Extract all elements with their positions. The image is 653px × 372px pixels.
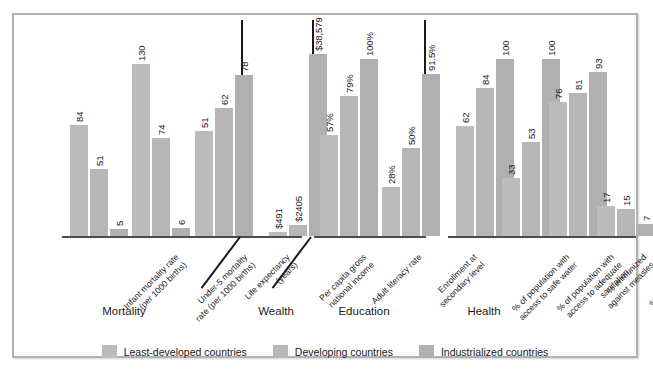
bar-item[interactable]: 5: [110, 229, 128, 236]
bar-item[interactable]: 74: [152, 138, 170, 236]
bar[interactable]: [617, 209, 635, 236]
bar-item[interactable]: $2405: [289, 225, 307, 236]
axis-baseline: [244, 236, 302, 238]
bar-item[interactable]: 79%: [340, 96, 358, 236]
bar-value-label: 15: [621, 196, 632, 206]
bar[interactable]: [152, 138, 170, 236]
bar-item[interactable]: 17: [597, 206, 615, 236]
legend-item[interactable]: Least-developed countries: [102, 345, 247, 358]
bar[interactable]: [476, 88, 494, 237]
legend-item[interactable]: Industrialized countries: [419, 345, 548, 358]
bar[interactable]: [289, 225, 307, 236]
bar-item[interactable]: 53: [522, 142, 540, 236]
bar[interactable]: [360, 59, 378, 236]
bar[interactable]: [110, 229, 128, 236]
bar-item[interactable]: 50%: [402, 148, 420, 236]
bar-value-label: 100: [546, 41, 557, 57]
bar-item[interactable]: 57%: [320, 135, 338, 236]
bar[interactable]: [215, 108, 233, 236]
bar-group: 17157: [597, 206, 653, 236]
bar[interactable]: [195, 131, 213, 236]
bar-item[interactable]: 6: [172, 228, 190, 236]
bar-group: 516278: [195, 75, 253, 236]
legend-label: Developing countries: [295, 346, 393, 358]
bar-item[interactable]: 76: [549, 102, 567, 236]
bar-value-label: 130: [136, 46, 147, 62]
bar-item[interactable]: 84: [476, 88, 494, 237]
bar-item[interactable]: 51: [195, 131, 213, 236]
bar-item[interactable]: 62: [215, 108, 233, 236]
bar-group: 84515: [70, 125, 128, 236]
plot-area: 84515130746516278$491$2405$38,57957%79%1…: [32, 20, 632, 236]
bar[interactable]: [235, 75, 253, 236]
bar-value-label: 93: [593, 58, 604, 68]
bar-value-label: 79%: [344, 75, 355, 94]
bar[interactable]: [402, 148, 420, 236]
chart-frame: 84515130746516278$491$2405$38,57957%79%1…: [12, 13, 638, 358]
bar-item[interactable]: 100%: [360, 59, 378, 236]
bar[interactable]: [522, 142, 540, 236]
bar-value-label: 51: [94, 155, 105, 165]
bar-item[interactable]: 78: [235, 75, 253, 236]
axis-baseline: [314, 236, 426, 238]
bar[interactable]: [340, 96, 358, 236]
bar[interactable]: [456, 126, 474, 236]
bar[interactable]: [132, 64, 150, 236]
bar[interactable]: [569, 93, 587, 236]
legend-label: Least-developed countries: [124, 346, 247, 358]
bar-group: $491$2405$38,579: [269, 54, 327, 236]
bar[interactable]: [422, 74, 440, 236]
x-tick-label: Per capita grossnational income: [317, 252, 376, 311]
bar-item[interactable]: 51: [90, 169, 108, 236]
bar-item[interactable]: 62: [456, 126, 474, 236]
bar[interactable]: [90, 169, 108, 236]
bar-value-label: 28%: [386, 165, 397, 184]
bar-item[interactable]: 15: [617, 209, 635, 236]
bar[interactable]: [502, 178, 520, 236]
bar-value-label: 33: [506, 164, 517, 174]
bar-value-label: 100: [500, 41, 511, 57]
bar-value-label: 74: [156, 125, 167, 135]
x-tick-label: Enrollment atsecondary level: [429, 252, 486, 309]
bar-value-label: 53: [526, 129, 537, 139]
bar[interactable]: [172, 228, 190, 236]
bar-item[interactable]: 28%: [382, 187, 400, 237]
bar-value-label: 84: [74, 112, 85, 122]
bar[interactable]: [597, 206, 615, 236]
bar-value-label: 5: [114, 221, 125, 226]
bar[interactable]: [320, 135, 338, 236]
bar[interactable]: [269, 232, 287, 236]
bar-value-label: 51: [199, 117, 210, 127]
bar-value-label: 76: [553, 88, 564, 98]
axis-baseline: [62, 236, 258, 238]
bar[interactable]: [382, 187, 400, 237]
tick-line: Adult literacy rate: [369, 252, 423, 306]
bar-value-label: $38,579: [313, 18, 324, 52]
bar-item[interactable]: 7: [637, 224, 653, 236]
legend-swatch: [102, 345, 117, 358]
bar-value-label: 81: [573, 79, 584, 89]
bar[interactable]: [549, 102, 567, 236]
bar-item[interactable]: 81: [569, 93, 587, 236]
section-caption: Mortality: [64, 305, 184, 317]
bar-value-label: 50%: [406, 126, 417, 145]
bar-value-label: 62: [219, 95, 230, 105]
bar-value-label: 91.5%: [426, 45, 437, 71]
bar-group: 130746: [132, 64, 190, 236]
bar-item[interactable]: 84: [70, 125, 88, 236]
bar-value-label: 62: [460, 113, 471, 123]
bar-value-label: 17: [601, 193, 612, 203]
bar[interactable]: [70, 125, 88, 236]
bar-item[interactable]: 33: [502, 178, 520, 236]
section-caption: Health: [424, 305, 544, 317]
bar-value-label: $491: [273, 208, 284, 229]
bar[interactable]: [637, 224, 653, 236]
chart-figure: 84515130746516278$491$2405$38,57957%79%1…: [0, 0, 653, 372]
bar-value-label: 84: [480, 74, 491, 84]
bar-value-label: 57%: [324, 114, 335, 133]
bar-item[interactable]: $491: [269, 232, 287, 236]
legend-item[interactable]: Developing countries: [273, 345, 393, 358]
legend-swatch: [273, 345, 288, 358]
bar-item[interactable]: 91.5%: [422, 74, 440, 236]
bar-item[interactable]: 130: [132, 64, 150, 236]
